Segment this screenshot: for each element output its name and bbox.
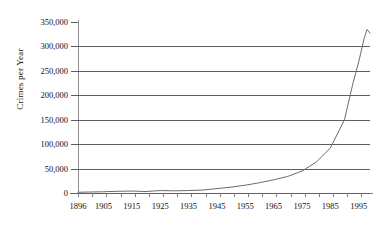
- y-tick-mark: [71, 71, 78, 72]
- y-tick-mark: [71, 46, 78, 47]
- x-tick-mark: [291, 193, 292, 197]
- y-tick-label: 0: [14, 189, 68, 198]
- y-tick-mark: [71, 193, 78, 194]
- x-tick-mark: [149, 193, 150, 197]
- x-tick-mark: [191, 193, 192, 197]
- x-tick-mark: [177, 193, 178, 197]
- x-tick-label: 1925: [152, 202, 169, 211]
- y-tick-label: 100,000: [14, 140, 68, 149]
- x-tick-label: 1965: [265, 202, 282, 211]
- x-tick-mark: [135, 193, 136, 197]
- x-tick-mark: [92, 193, 93, 197]
- y-tick-label: 350,000: [14, 18, 68, 27]
- x-tick-label: 1905: [95, 202, 112, 211]
- y-tick-mark: [71, 144, 78, 145]
- x-tick-mark: [163, 193, 164, 197]
- x-tick-mark: [248, 193, 249, 197]
- y-tick-mark: [71, 120, 78, 121]
- x-tick-label: 1945: [208, 202, 225, 211]
- x-tick-mark: [333, 193, 334, 197]
- x-tick-label: 1955: [237, 202, 254, 211]
- data-series-line: [78, 22, 370, 193]
- y-tick-label: 50,000: [14, 164, 68, 173]
- y-tick-mark: [71, 95, 78, 96]
- x-tick-mark: [319, 193, 320, 197]
- x-tick-label: 1975: [293, 202, 310, 211]
- x-tick-mark: [305, 193, 306, 197]
- x-tick-label: 1985: [322, 202, 339, 211]
- x-tick-label: 1896: [70, 202, 87, 211]
- x-tick-label: 1915: [123, 202, 140, 211]
- gridline-y: [78, 193, 370, 194]
- x-tick-mark: [234, 193, 235, 197]
- x-tick-mark: [106, 193, 107, 197]
- x-tick-mark: [347, 193, 348, 197]
- x-tick-mark: [262, 193, 263, 197]
- x-tick-mark: [276, 193, 277, 197]
- x-tick-mark: [206, 193, 207, 197]
- x-tick-mark: [220, 193, 221, 197]
- y-tick-label: 250,000: [14, 67, 68, 76]
- x-tick-mark: [361, 193, 362, 197]
- y-axis-tick-labels: 050,000100,000150,000200,000250,000300,0…: [14, 0, 68, 230]
- x-tick-label: 1995: [350, 202, 367, 211]
- y-tick-mark: [71, 169, 78, 170]
- y-tick-label: 200,000: [14, 91, 68, 100]
- crimes-per-year-line-chart: Crimes per Year 050,000100,000150,000200…: [0, 0, 380, 230]
- crimes-series-polyline: [78, 29, 370, 192]
- x-tick-label: 1935: [180, 202, 197, 211]
- y-tick-label: 150,000: [14, 115, 68, 124]
- x-tick-mark: [121, 193, 122, 197]
- x-tick-mark: [78, 193, 79, 197]
- y-tick-label: 300,000: [14, 42, 68, 51]
- y-tick-mark: [71, 22, 78, 23]
